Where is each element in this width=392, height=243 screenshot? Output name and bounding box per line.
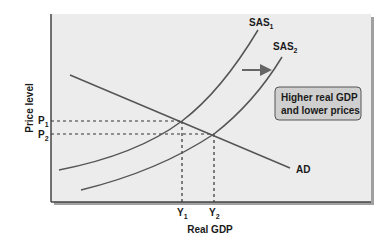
y-axis-title: Price level — [24, 83, 35, 133]
y1-label: Y1 — [177, 207, 188, 220]
ad-label: AD — [296, 164, 310, 175]
callout-line1: Higher real GDP — [281, 92, 358, 103]
p1-label: P1 — [38, 115, 49, 128]
x-axis-title: Real GDP — [187, 224, 233, 235]
as-ad-diagram: Higher real GDP and lower prices SAS1 SA… — [0, 0, 392, 243]
y2-label: Y2 — [209, 207, 220, 220]
p2-label: P2 — [38, 129, 49, 142]
callout-line2: and lower prices — [281, 105, 360, 116]
